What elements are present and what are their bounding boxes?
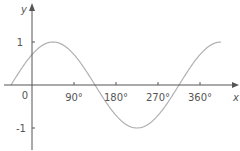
x-axis-label: x xyxy=(232,92,239,103)
origin-label: 0 xyxy=(22,90,28,101)
x-axis-arrow-icon xyxy=(232,82,239,88)
sine-chart: 90° 180° 270° 360° 1 -1 0 x y xyxy=(0,0,240,151)
y-axis-label: y xyxy=(20,4,28,15)
y-tick-label-1: 1 xyxy=(17,37,23,48)
y-tick-label-neg1: -1 xyxy=(16,123,26,134)
x-tick-label-90: 90° xyxy=(65,92,83,103)
x-tick-label-270: 270° xyxy=(146,92,170,103)
x-tick-label-180: 180° xyxy=(104,92,128,103)
x-tick-label-360: 360° xyxy=(188,92,212,103)
y-axis-arrow-icon xyxy=(29,3,35,11)
